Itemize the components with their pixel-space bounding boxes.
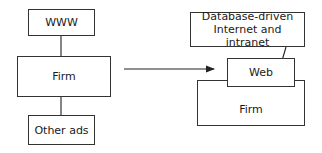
other-ads-box: Other ads: [28, 115, 95, 145]
other-ads-label: Other ads: [34, 124, 88, 137]
www-box: WWW: [28, 9, 95, 36]
firm-label-right: Firm: [239, 103, 263, 116]
callout-line2: Internet and intranet: [191, 23, 304, 49]
web-box: Web: [227, 58, 295, 87]
callout-box: Database-driven Internet and intranet: [190, 12, 305, 47]
web-label: Web: [249, 66, 273, 79]
firm-box-left: Firm: [17, 56, 111, 97]
www-label: WWW: [45, 16, 78, 29]
callout-line1: Database-driven: [202, 10, 293, 23]
firm-label-left: Firm: [52, 70, 76, 83]
